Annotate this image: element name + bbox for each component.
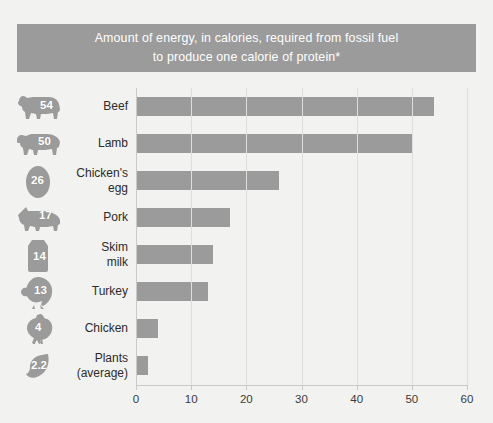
tick-30 xyxy=(302,385,303,390)
x-tick-label: 40 xyxy=(350,393,363,405)
lamb-icon: 50 xyxy=(14,125,62,162)
tick-0 xyxy=(136,385,137,390)
tick-60 xyxy=(467,385,468,390)
leaf-icon: 2.2 xyxy=(14,347,62,384)
chicken-icon: 4 xyxy=(14,310,62,347)
plot-area: 0102030405060 xyxy=(136,88,467,385)
category-label-line: (average) xyxy=(77,366,128,381)
chart-title-line-1: Amount of energy, in calories, required … xyxy=(95,29,399,48)
category-label-line: Pork xyxy=(103,210,128,225)
x-tick-label: 10 xyxy=(185,393,198,405)
gridline-50 xyxy=(412,88,413,385)
gridline-30 xyxy=(302,88,303,385)
chart-title-line-2: to produce one calorie of protein* xyxy=(153,48,341,67)
x-tick-label: 30 xyxy=(295,393,308,405)
category-label: Pork xyxy=(60,199,128,236)
category-label: Skimmilk xyxy=(60,236,128,273)
gridline-10 xyxy=(191,88,192,385)
category-label-line: Plants xyxy=(95,351,128,366)
tick-50 xyxy=(412,385,413,390)
category-label: Chicken xyxy=(60,310,128,347)
tick-20 xyxy=(246,385,247,390)
gridline-40 xyxy=(357,88,358,385)
category-label-line: Skim xyxy=(101,240,128,255)
category-label: Beef xyxy=(60,88,128,125)
category-label: Turkey xyxy=(60,273,128,310)
category-label-line: egg xyxy=(108,181,128,196)
x-tick-label: 60 xyxy=(461,393,474,405)
tick-10 xyxy=(191,385,192,390)
chart-figure: Amount of energy, in calories, required … xyxy=(0,0,493,423)
category-label: Plants(average) xyxy=(60,347,128,384)
category-label-line: Chicken xyxy=(85,321,128,336)
y-axis-line xyxy=(136,88,137,385)
category-label-line: Chicken's xyxy=(76,166,128,181)
category-label-line: milk xyxy=(107,255,128,270)
pig-icon: 17 xyxy=(14,199,62,236)
x-tick-label: 20 xyxy=(240,393,253,405)
chart-title-banner: Amount of energy, in calories, required … xyxy=(17,24,476,72)
category-label: Chicken'segg xyxy=(60,162,128,199)
category-label: Lamb xyxy=(60,125,128,162)
category-label-line: Beef xyxy=(103,99,128,114)
category-label-line: Turkey xyxy=(92,284,128,299)
tick-40 xyxy=(357,385,358,390)
x-tick-label: 0 xyxy=(133,393,139,405)
egg-icon: 26 xyxy=(14,162,62,199)
x-tick-label: 50 xyxy=(405,393,418,405)
category-label-line: Lamb xyxy=(98,136,128,151)
milk-carton-icon: 14 xyxy=(14,236,62,273)
gridline-20 xyxy=(246,88,247,385)
gridline-60 xyxy=(467,88,468,385)
cow-icon: 54 xyxy=(14,88,62,125)
turkey-icon: 13 xyxy=(14,273,62,310)
